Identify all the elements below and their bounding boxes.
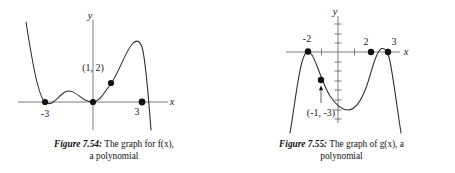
figure-7-54-plot: y x -3 3 (1, 2) [0,0,228,135]
point-marker-x-neg3 [42,99,48,105]
figure-7-54-caption-line-2: a polynomial [0,150,228,162]
figure-7-54-caption-head: Figure 7.54: [54,139,102,149]
function-curve-g [290,48,401,133]
point-label-1-2: (1, 2) [82,62,104,74]
x-axis-label: x [169,96,175,107]
point-marker-x-neg2 [305,48,311,54]
figure-7-55-caption: Figure 7.55: The graph of g(x), a polyno… [228,138,455,162]
y-axis-label: y [87,10,93,21]
figure-7-55-caption-head: Figure 7.55: [279,139,327,149]
figure-7-55: y x -2 2 3 (-1, -3) Figure 7.55: The gra… [228,0,455,173]
point-marker-x-3 [385,49,391,55]
figure-7-55-svg: y x -2 2 3 (-1, -3) [228,0,455,135]
figure-7-54-svg: y x -3 3 (1, 2) [0,0,228,135]
point-marker-origin [90,99,96,105]
point-label-neg1-neg3: (-1, -3) [307,107,335,119]
figure-7-55-plot: y x -2 2 3 (-1, -3) [228,0,455,135]
x-tick-label-2: 2 [364,36,369,47]
figure-7-54-caption-text-1: The graph for f(x), [104,139,174,149]
callout-arrow-head-icon [319,86,323,91]
x-tick-label-neg2: -2 [303,33,311,44]
figure-7-55-caption-line-2: polynomial [228,150,455,162]
x-tick-label-neg3: -3 [41,108,49,119]
y-axis-label: y [332,6,338,17]
figure-7-54: y x -3 3 (1, 2) Figure 7.54: The graph f… [0,0,228,173]
figure-7-55-caption-text-1: The graph of g(x), a [329,139,404,149]
point-marker-1-2 [108,80,114,86]
figure-7-54-caption-line-1: Figure 7.54: The graph for f(x), [0,138,228,150]
point-marker-x-2 [368,49,374,55]
x-tick-label-3: 3 [135,106,140,117]
point-marker-neg1-neg3 [318,77,324,83]
figure-7-55-caption-line-1: Figure 7.55: The graph of g(x), a [228,138,455,150]
x-tick-label-3: 3 [392,36,397,47]
figure-pair-sheet: y x -3 3 (1, 2) Figure 7.54: The graph f… [0,0,455,173]
x-axis-label: x [403,46,409,57]
figure-7-54-caption: Figure 7.54: The graph for f(x), a polyn… [0,138,228,162]
point-marker-x-3 [139,99,146,106]
